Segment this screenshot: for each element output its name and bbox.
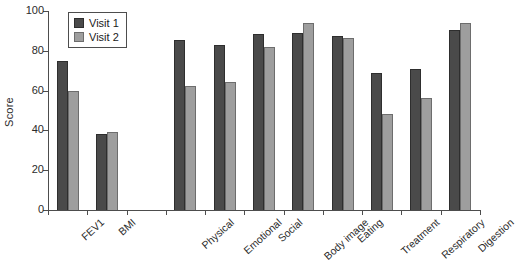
bar-visit-2 [421, 98, 432, 210]
x-tick-mark [127, 210, 128, 215]
bar-visit-2 [264, 47, 275, 210]
bar-visit-1 [174, 40, 185, 210]
y-tick-label: 40 [32, 123, 44, 135]
bar-visit-2 [225, 82, 236, 210]
legend-swatch-visit-2-icon [74, 32, 84, 42]
x-tick-mark [48, 210, 49, 215]
legend-item-visit-2: Visit 2 [74, 30, 119, 44]
x-tick-mark [166, 210, 167, 215]
bar-visit-2 [343, 38, 354, 210]
x-tick-mark [284, 210, 285, 215]
x-tick-label: Respiratory [439, 216, 487, 261]
x-tick-mark [441, 210, 442, 215]
bar-visit-1 [57, 61, 68, 210]
y-axis-label: Score [3, 82, 15, 142]
legend-label-visit-2: Visit 2 [89, 31, 119, 43]
x-tick-mark [401, 210, 402, 215]
bar-visit-2 [303, 23, 314, 210]
x-tick-mark [87, 210, 88, 215]
x-axis-labels: FEV1BMIPhysicalEmotionalSocialBody image… [48, 216, 480, 274]
x-tick-mark [244, 210, 245, 215]
legend-item-visit-1: Visit 1 [74, 16, 119, 30]
y-tick-label: 20 [32, 163, 44, 175]
x-tick-label: Treatment [398, 216, 441, 257]
bar-visit-1 [253, 34, 264, 210]
bar-visit-2 [382, 114, 393, 211]
y-axis-line [48, 11, 49, 210]
y-tick-label: 0 [38, 203, 44, 215]
legend-label-visit-1: Visit 1 [89, 17, 119, 29]
x-tick-label: BMI [116, 216, 138, 237]
bar-visit-1 [371, 73, 382, 210]
x-tick-mark [205, 210, 206, 215]
x-axis-line [48, 210, 480, 211]
x-tick-mark [323, 210, 324, 215]
y-tick-label: 60 [32, 84, 44, 96]
x-tick-mark [480, 210, 481, 215]
bar-visit-2 [185, 86, 196, 210]
bar-visit-2 [107, 132, 118, 210]
bar-visit-1 [332, 36, 343, 210]
x-tick-label: FEV1 [78, 216, 106, 242]
x-tick-mark [362, 210, 363, 215]
x-tick-label: Physical [199, 216, 236, 251]
bar-visit-1 [214, 45, 225, 210]
bar-visit-1 [449, 30, 460, 210]
bar-visit-2 [68, 91, 79, 210]
y-tick-label: 100 [26, 4, 44, 16]
bar-visit-2 [460, 23, 471, 210]
bar-visit-1 [96, 134, 107, 210]
bar-visit-1 [410, 69, 421, 210]
bar-visit-1 [292, 33, 303, 210]
y-tick-label: 80 [32, 44, 44, 56]
legend-swatch-visit-1-icon [74, 18, 84, 28]
chart-legend: Visit 1 Visit 2 [68, 12, 127, 48]
